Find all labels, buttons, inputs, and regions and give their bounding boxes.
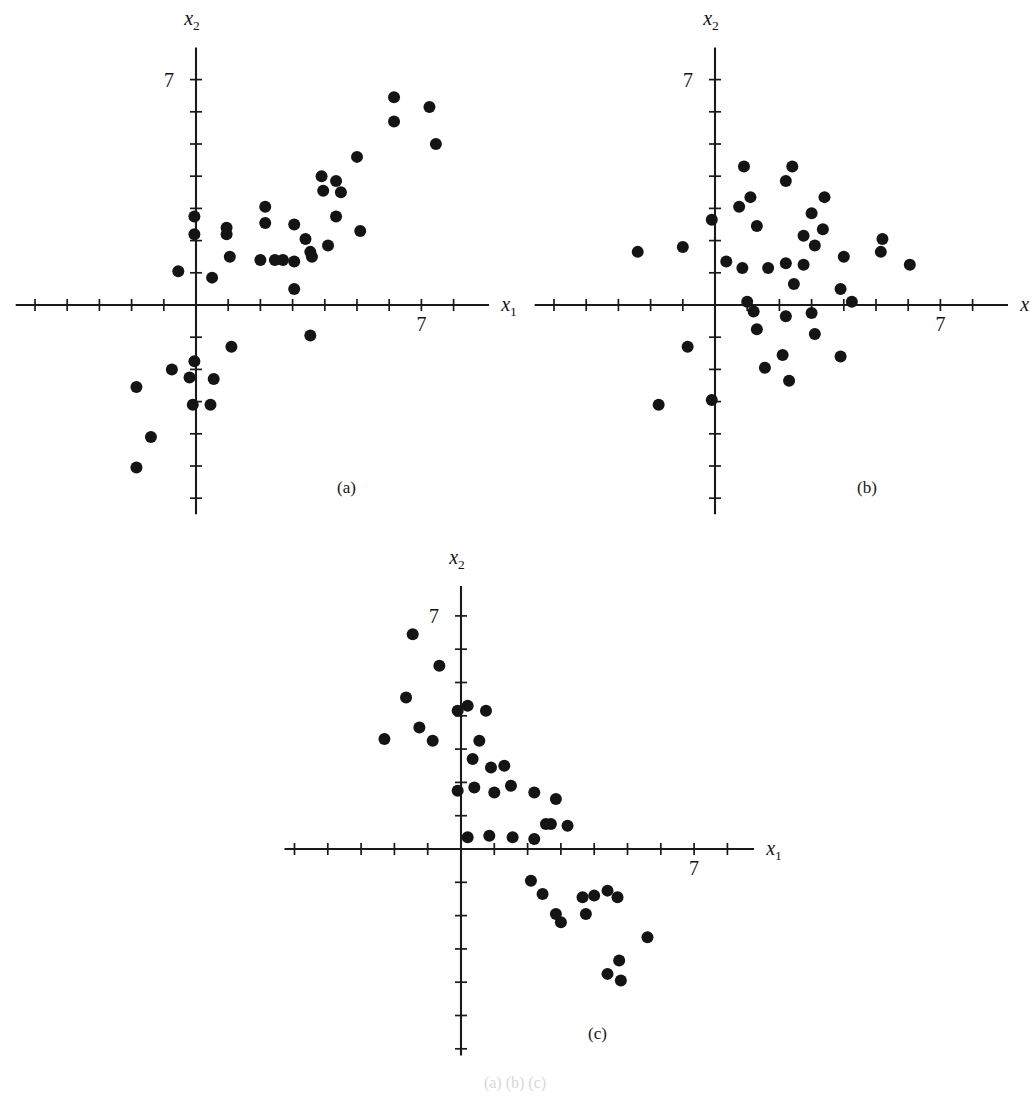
data-point <box>555 916 567 928</box>
data-point <box>612 891 624 903</box>
data-point <box>400 691 412 703</box>
x-axis-tick-label: 7 <box>689 857 699 879</box>
data-point <box>613 955 625 967</box>
data-point <box>485 761 497 773</box>
y-axis-label: x2 <box>448 546 465 572</box>
data-point <box>378 733 390 745</box>
scatter-plot-c: 77x1x2 <box>0 0 1030 1097</box>
data-point <box>641 931 653 943</box>
data-point <box>588 890 600 902</box>
figure-root: 77x1x2(a)77x1x2(b)77x1x2(c) (a) (b) (c) <box>0 0 1030 1097</box>
data-point-group <box>378 628 653 986</box>
data-point <box>537 888 549 900</box>
data-point <box>433 660 445 672</box>
data-point <box>550 793 562 805</box>
data-point <box>615 975 627 987</box>
data-point <box>467 753 479 765</box>
data-point <box>452 705 464 717</box>
data-point <box>562 820 574 832</box>
data-point <box>528 786 540 798</box>
data-point <box>427 735 439 747</box>
data-point <box>577 891 589 903</box>
data-point <box>602 885 614 897</box>
data-point <box>545 818 557 830</box>
scatter-panel-c: 77x1x2(c) <box>0 0 1030 1097</box>
y-axis-tick-label: 7 <box>429 605 439 627</box>
x-axis-label: x1 <box>765 837 782 863</box>
data-point <box>580 908 592 920</box>
panel-caption-c: (c) <box>588 1024 607 1044</box>
data-point <box>525 875 537 887</box>
data-point <box>505 780 517 792</box>
data-point <box>407 628 419 640</box>
data-point <box>480 705 492 717</box>
data-point <box>528 833 540 845</box>
data-point <box>413 721 425 733</box>
data-point <box>488 786 500 798</box>
data-point <box>602 968 614 980</box>
figure-bottom-caption: (a) (b) (c) <box>0 1074 1030 1092</box>
data-point <box>498 760 510 772</box>
data-point <box>507 831 519 843</box>
data-point <box>462 831 474 843</box>
data-point <box>473 735 485 747</box>
data-point <box>452 785 464 797</box>
data-point <box>483 830 495 842</box>
data-point <box>468 781 480 793</box>
